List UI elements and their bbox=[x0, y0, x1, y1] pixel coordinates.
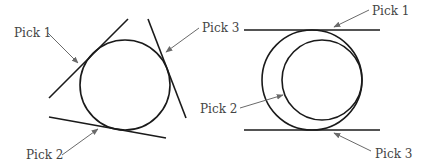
right-pick1-arrow-icon bbox=[334, 10, 369, 27]
diagram-canvas: Pick 1 Pick 3 Pick 2 Pick 1 Pick 2 Pick … bbox=[0, 0, 425, 165]
left-pick2-arrow-icon bbox=[62, 129, 98, 155]
right-pick2-arrow-icon bbox=[240, 95, 283, 108]
left-pick1-label: Pick 1 bbox=[14, 26, 51, 40]
right-inner-circle bbox=[282, 40, 362, 120]
left-tangent-line-1 bbox=[49, 19, 128, 98]
left-pick2-label: Pick 2 bbox=[26, 148, 63, 162]
right-pick3-label: Pick 3 bbox=[375, 147, 412, 161]
left-pick3-label: Pick 3 bbox=[202, 21, 239, 35]
left-pick1-arrow-icon bbox=[48, 33, 78, 63]
left-diagram: Pick 1 Pick 3 Pick 2 bbox=[14, 19, 239, 162]
left-tangent-line-2 bbox=[49, 117, 166, 138]
right-pick3-arrow-icon bbox=[334, 133, 371, 151]
right-pick2-label: Pick 2 bbox=[200, 102, 237, 116]
left-pick3-arrow-icon bbox=[166, 28, 199, 52]
right-pick1-label: Pick 1 bbox=[372, 4, 409, 18]
right-tangent-circle bbox=[262, 30, 362, 130]
